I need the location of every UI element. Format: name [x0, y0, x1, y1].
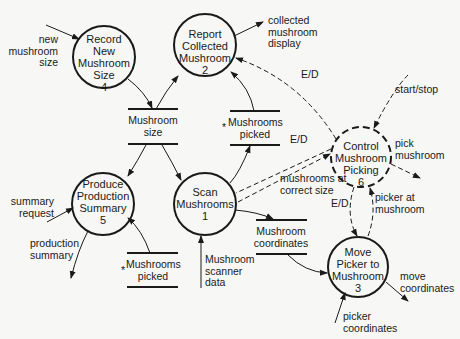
store-mushrooms-picked-top: Mushrooms picked	[228, 117, 282, 140]
flow-ed-2: E/D	[301, 69, 319, 81]
flow-ed-1: E/D	[290, 134, 308, 146]
store-mushroom-size: Mushroom size	[128, 115, 178, 138]
process-5-label: Produce Production Summary 5	[70, 178, 136, 226]
flow-new-mushroom-size: new mushroom size	[8, 34, 58, 69]
flow-picker-coordinates: picker coordinates	[343, 311, 397, 334]
flow-mushrooms-at-correct-size: mushrooms at correct size	[280, 173, 347, 196]
flow-pick-mushroom: pick mushroom	[395, 138, 445, 161]
process-1-label: Scan Mushrooms 1	[173, 186, 237, 222]
flow-collected-mushroom-display: collected mushroom display	[268, 15, 318, 50]
process-4-label: Record New Mushroom Size 4	[74, 33, 134, 93]
store-mushroom-coordinates: Mushroom coordinates	[253, 226, 309, 249]
flow-picker-at-mushroom: picker at mushroom	[375, 192, 425, 215]
process-3-label: Move Picker to Mushroom 3	[326, 246, 390, 294]
store-marker: *	[222, 122, 226, 134]
flow-summary-request: summary request	[0, 196, 54, 219]
store-marker: *	[121, 265, 125, 277]
flow-move-coordinates: move coordinates	[400, 271, 454, 294]
flow-production-summary: production summary	[30, 238, 79, 261]
flow-start-stop: start/stop	[395, 84, 438, 96]
flow-mushroom-scanner-data: Mushroom scanner data	[205, 254, 255, 289]
flow-ed-3: E/D	[331, 198, 349, 210]
store-mushrooms-picked-bottom: Mushrooms picked	[126, 259, 180, 282]
process-2-label: Report Collected Mushroom 2	[173, 28, 237, 76]
